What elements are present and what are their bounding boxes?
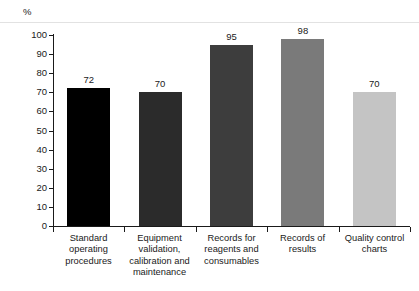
x-axis-category-label-line: Equipment (124, 233, 195, 244)
x-axis-tick (267, 227, 268, 232)
x-axis-category-label-line: validation, (124, 244, 195, 255)
bar-value-label: 70 (354, 78, 394, 89)
y-axis-tick-label-text: 30 (21, 164, 47, 174)
bar (67, 88, 110, 226)
y-axis-tick-label: 50 (17, 126, 47, 136)
bar (281, 39, 324, 226)
y-axis-tick-label: 40 (17, 145, 47, 155)
x-axis-category-label-line: charts (339, 244, 410, 255)
x-axis-tick (53, 227, 54, 232)
y-axis-tick (49, 111, 54, 112)
x-axis-category-label-line: maintenance (124, 267, 195, 278)
y-axis-tick-label: 90 (17, 49, 47, 59)
y-axis-unit-label: % (23, 6, 32, 17)
bar-value-label: 72 (69, 74, 109, 85)
x-axis-category-label-line: calibration and (124, 256, 195, 267)
bar-value-label: 95 (212, 31, 252, 42)
y-axis-tick (49, 188, 54, 189)
y-axis-tick-label: 10 (17, 202, 47, 212)
x-axis-category-label-line: Quality control (339, 233, 410, 244)
y-axis-tick-label-text: 40 (21, 145, 47, 155)
x-axis-category-label: Standardoperatingprocedures (53, 233, 124, 267)
x-axis-category-label: Quality controlcharts (339, 233, 410, 256)
x-axis-tick (196, 227, 197, 232)
y-axis-tick-label: 30 (17, 164, 47, 174)
y-axis-tick (49, 73, 54, 74)
x-axis-category-label-line: results (267, 244, 338, 255)
y-axis-tick-label: 100 (17, 30, 47, 40)
y-axis-tick-label-text: 60 (21, 106, 47, 116)
y-axis-tick (49, 207, 54, 208)
y-axis-tick (49, 131, 54, 132)
y-axis-tick (49, 35, 54, 36)
bar (210, 45, 253, 226)
x-axis-tick (339, 227, 340, 232)
x-axis-category-label: Equipmentvalidation,calibration andmaint… (124, 233, 195, 279)
y-axis-tick-label-text: 50 (21, 126, 47, 136)
y-axis-tick (49, 150, 54, 151)
y-axis-tick-label: 60 (17, 106, 47, 116)
x-axis-tick (410, 227, 411, 232)
bar (353, 92, 396, 226)
y-axis-tick-label: 0 (17, 221, 47, 231)
x-axis-category-label-line: Standard (53, 233, 124, 244)
y-axis-tick-label-text: 80 (21, 68, 47, 78)
bar (139, 92, 182, 226)
y-axis-tick (49, 54, 54, 55)
x-axis-category-label-line: operating (53, 244, 124, 255)
bar-value-label: 70 (140, 78, 180, 89)
y-axis-tick (49, 92, 54, 93)
x-axis-category-label-line: Records of (267, 233, 338, 244)
y-axis-tick (49, 169, 54, 170)
scan-artifact-rule (0, 22, 419, 23)
y-axis-tick-label-text: 70 (21, 87, 47, 97)
y-axis-tick-label-text: 10 (21, 202, 47, 212)
y-axis-tick-label: 70 (17, 87, 47, 97)
x-axis-category-label-line: reagents and (196, 244, 267, 255)
x-axis-category-label-line: procedures (53, 256, 124, 267)
bar-chart-figure: % 0102030405060708090100 7270959870 Stan… (0, 0, 419, 291)
x-axis-category-label-line: consumables (196, 256, 267, 267)
y-axis-tick-label: 20 (17, 183, 47, 193)
y-axis-tick-label: 80 (17, 68, 47, 78)
y-axis-tick-label-text: 0 (21, 221, 47, 231)
x-axis-category-label: Records forreagents andconsumables (196, 233, 267, 267)
bar-value-label: 98 (283, 25, 323, 36)
x-axis-category-label: Records ofresults (267, 233, 338, 256)
x-axis-tick (124, 227, 125, 232)
y-axis-tick-label-text: 20 (21, 183, 47, 193)
x-axis-category-label-line: Records for (196, 233, 267, 244)
x-axis-line (53, 226, 410, 227)
y-axis-tick-label-text: 90 (21, 49, 47, 59)
y-axis-tick-label-text: 100 (21, 30, 47, 40)
